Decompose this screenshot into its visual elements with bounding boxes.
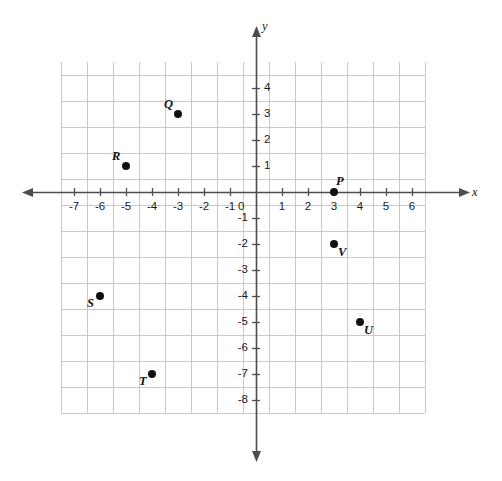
y-tick-label: 2 — [264, 134, 270, 146]
x-axis-label: x — [472, 186, 478, 199]
y-tick-label: -5 — [218, 316, 248, 328]
y-tick-label: 1 — [264, 160, 270, 172]
y-axis-label: y — [262, 20, 268, 33]
point-label-v: V — [338, 246, 346, 259]
x-tick-label: 3 — [320, 201, 348, 213]
y-tick-label: 3 — [264, 108, 270, 120]
x-tick-label: 1 — [268, 201, 296, 213]
y-tick-label: -2 — [218, 238, 248, 250]
point-label-u: U — [364, 324, 373, 337]
coordinate-plane-svg — [0, 0, 502, 481]
x-tick-label: -5 — [112, 201, 140, 213]
x-tick-label: 5 — [372, 201, 400, 213]
y-tick-label: -8 — [218, 394, 248, 406]
y-tick-label: 4 — [264, 82, 270, 94]
point-label-q: Q — [164, 98, 173, 111]
y-tick-label: -1 — [218, 212, 248, 224]
y-tick-label: -4 — [218, 290, 248, 302]
x-tick-label: -4 — [138, 201, 166, 213]
x-tick-label: -6 — [86, 201, 114, 213]
point-label-r: R — [112, 150, 120, 163]
x-tick-label: -3 — [164, 201, 192, 213]
y-tick-label: -6 — [218, 342, 248, 354]
x-tick-label: 6 — [398, 201, 426, 213]
y-tick-label: -7 — [218, 368, 248, 380]
point-label-p: P — [336, 175, 344, 188]
x-tick-label: -7 — [60, 201, 88, 213]
point-label-s: S — [87, 297, 94, 310]
point-label-t: T — [139, 375, 147, 388]
x-tick-label: 4 — [346, 201, 374, 213]
coordinate-plane-figure: -7-6-5-4-3-2-11234564321-1-2-3-4-5-6-7-8… — [0, 0, 502, 481]
x-tick-label: -2 — [190, 201, 218, 213]
origin-label: 0 — [238, 201, 244, 213]
y-tick-label: -3 — [218, 264, 248, 276]
x-tick-label: 2 — [294, 201, 322, 213]
